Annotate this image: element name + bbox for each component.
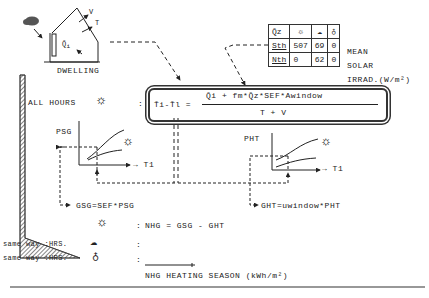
lamp-icon: ♁ — [92, 249, 99, 264]
lamp-icon: ♁ — [328, 25, 340, 39]
table-header-row: Q̄z ☼ ☁ ♁ — [269, 25, 340, 39]
ght-equation: GHT=uwindow*PHT — [261, 201, 341, 210]
house-icon — [34, 8, 100, 62]
colon: : — [136, 255, 141, 264]
colon: : — [138, 99, 143, 108]
formula-denominator: T + V — [260, 108, 287, 117]
table-row: Nth 0 62 0 — [269, 53, 340, 67]
sun-icon: ☼ — [98, 215, 106, 230]
formula-box: T̄i-T̄l = Q̄i + fm*Q̄z*SEF*Awindow T + V — [148, 88, 388, 122]
nhg-caption: NHG HEATING SEASON (kWh/m²) — [145, 271, 288, 280]
label-qi: Q̄i — [62, 40, 71, 50]
pht-xlabel: → T1 — [322, 164, 343, 173]
caption-solar: SOLAR — [347, 61, 374, 70]
caption-irrad: IRRAD.(W/m²) — [347, 75, 411, 84]
table-row: Sth 507 69 0 — [269, 39, 340, 53]
pht-graph — [178, 133, 320, 205]
psg-label: PSG — [56, 127, 72, 136]
colon: : — [136, 221, 141, 230]
fraction-bar — [202, 104, 378, 105]
label-v: V — [89, 8, 94, 16]
all-hours-label: ALL HOURS — [28, 98, 76, 107]
gsg-equation: GSG=SEF*PSG — [76, 201, 134, 210]
sun-icon: ☼ — [322, 134, 330, 149]
sun-icon: ☼ — [290, 25, 311, 39]
sun-icon: ☼ — [97, 92, 105, 108]
cloud-icon: ☁ — [311, 25, 328, 39]
cloud-icon — [23, 17, 39, 26]
colon: : — [136, 240, 141, 249]
irradiance-table: Q̄z ☼ ☁ ♁ Sth 507 69 0 Nth 0 62 0 — [268, 24, 340, 67]
psg-xlabel: → T1 — [133, 160, 154, 169]
label-t: T — [95, 19, 100, 27]
psg-graph — [60, 121, 175, 205]
formula-numerator: Q̄i + fm*Q̄z*SEF*Awindow — [206, 91, 323, 100]
caption-mean: MEAN — [347, 47, 368, 56]
same-way-lamp-label: same way :HRS. — [3, 254, 67, 262]
qz-header: Q̄z — [269, 25, 290, 39]
nhg-equation: NHG = GSG - GHT — [145, 221, 225, 230]
cloud-icon: ☁ — [90, 234, 97, 249]
dwelling-label: DWELLING — [57, 66, 99, 75]
sun-icon: ☼ — [124, 134, 132, 149]
pht-label: PHT — [244, 134, 260, 143]
same-way-cloud-label: same way :HRS. — [3, 240, 67, 248]
formula-lhs: T̄i-T̄l = — [154, 100, 191, 109]
